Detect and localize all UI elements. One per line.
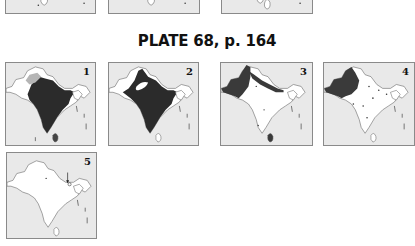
- india-map-5: [7, 153, 96, 238]
- map-number-1: 1: [83, 66, 90, 77]
- map-number-4: 4: [402, 66, 409, 77]
- map-number-3: 3: [300, 66, 307, 77]
- map-panel-5: 5: [6, 152, 97, 239]
- india-map-4: [324, 63, 414, 145]
- map-outline: [6, 0, 95, 13]
- previous-map-panel-c: [221, 0, 313, 14]
- previous-map-panel-b: [108, 0, 200, 14]
- india-map-3: [221, 63, 312, 145]
- plate-title: PLATE 68, p. 164: [0, 32, 414, 50]
- map-panel-2: 2: [108, 62, 199, 146]
- map-outline: [109, 0, 199, 13]
- map-panel-4: 4: [323, 62, 415, 146]
- map-panel-3: 3: [220, 62, 313, 146]
- map-number-2: 2: [186, 66, 193, 77]
- india-map-2: [109, 63, 198, 145]
- india-map-1: [6, 63, 95, 145]
- map-panel-1: 1: [5, 62, 96, 146]
- previous-map-panel-a: [5, 0, 96, 14]
- map-outline: [222, 0, 312, 13]
- map-number-5: 5: [84, 156, 91, 167]
